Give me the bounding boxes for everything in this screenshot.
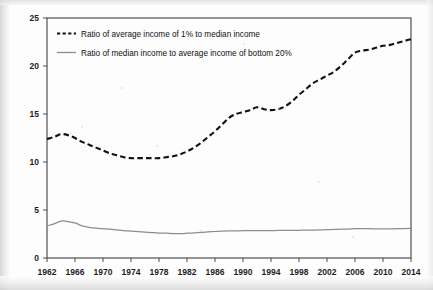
scan-speck — [318, 181, 320, 183]
legend-label-median-to-bottom20: Ratio of median income to average income… — [81, 49, 292, 58]
scan-speck — [121, 87, 123, 89]
x-axis-tick-1978: 1978 — [150, 267, 169, 277]
y-axis-tick-5: 5 — [34, 205, 39, 215]
x-axis-tick-1974: 1974 — [122, 267, 141, 277]
scan-speck — [96, 50, 98, 52]
scan-speck — [243, 43, 245, 45]
y-axis-tick-15: 15 — [30, 109, 40, 119]
scan-speck — [352, 236, 354, 238]
scan-speck — [156, 145, 158, 147]
x-axis-tick-2002: 2002 — [318, 267, 337, 277]
scan-speck — [278, 107, 280, 109]
scan-speck — [81, 126, 83, 128]
y-axis-tick-20: 20 — [30, 61, 40, 71]
y-axis-tick-0: 0 — [34, 253, 39, 263]
x-axis-tick-1994: 1994 — [262, 267, 281, 277]
y-axis-tick-10: 10 — [30, 157, 40, 167]
x-axis-tick-2006: 2006 — [346, 267, 365, 277]
x-axis-tick-1990: 1990 — [234, 267, 253, 277]
chart-svg: 0510152025 19621966197019741978198219861… — [0, 0, 433, 290]
x-axis-tick-labels: 1962196619701974197819821986199019941998… — [38, 267, 421, 277]
chart-legend: Ratio of average income of 1% to median … — [57, 30, 292, 58]
x-axis-tick-1986: 1986 — [206, 267, 225, 277]
x-axis-tick-2014: 2014 — [402, 267, 421, 277]
x-axis-tick-1966: 1966 — [66, 267, 85, 277]
x-axis-tick-1962: 1962 — [38, 267, 57, 277]
series-line-median-to-bottom20 — [47, 221, 411, 234]
y-axis-tick-25: 25 — [30, 13, 40, 23]
x-axis-tick-1982: 1982 — [178, 267, 197, 277]
line-chart: 0510152025 19621966197019741978198219861… — [0, 0, 433, 290]
page-background: 0510152025 19621966197019741978198219861… — [0, 0, 433, 290]
y-axis-tick-labels: 0510152025 — [30, 13, 40, 263]
legend-label-top1-to-median: Ratio of average income of 1% to median … — [81, 30, 260, 39]
scan-speck — [200, 230, 202, 232]
x-axis-tick-2010: 2010 — [374, 267, 393, 277]
x-axis-tick-1970: 1970 — [94, 267, 113, 277]
x-axis-tick-1998: 1998 — [290, 267, 309, 277]
